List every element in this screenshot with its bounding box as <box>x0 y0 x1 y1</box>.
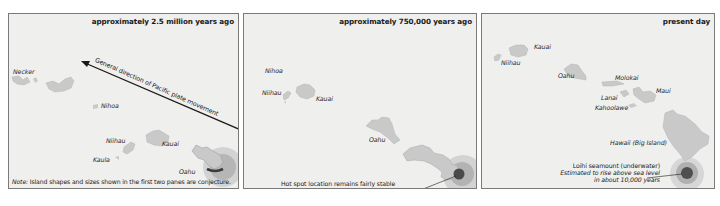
island-maui <box>633 87 656 103</box>
label-nihoa: Nihoa <box>265 67 283 74</box>
label-kauai: Kauai <box>534 43 551 50</box>
loihi-callout: Loihi seamount (underwater) Estimated to… <box>560 162 660 183</box>
island-niihau <box>283 91 291 100</box>
islet <box>284 101 286 104</box>
panel-2-5-million-years: approximately 2.5 million years ago Gene… <box>8 13 239 189</box>
label-lanai: Lanai <box>601 94 617 101</box>
island-unnamed <box>46 77 74 92</box>
island-necker <box>12 76 30 85</box>
island-map-svg <box>9 14 239 189</box>
panel-title: approximately 750,000 years ago <box>339 17 472 26</box>
callout-line-2: Estimated to rise above sea level <box>560 169 660 176</box>
panel-title: present day <box>663 17 710 26</box>
label-kaula: Kaula <box>93 156 110 163</box>
note-body: Island shapes and sizes shown in the fir… <box>28 178 231 185</box>
island-kaula <box>115 156 119 160</box>
label-nihoa: Nihoa <box>101 102 119 109</box>
hotspot-callout: Hot spot location remains fairly stable <box>281 180 395 187</box>
island-molokai <box>602 81 624 86</box>
island-kauai <box>296 84 315 99</box>
island-niihau <box>494 54 501 61</box>
label-necker: Necker <box>13 68 35 75</box>
label-kauai: Kauai <box>162 140 179 147</box>
island-kahoolawe <box>628 103 637 108</box>
label-kahoolawe: Kahoolawe <box>595 104 628 111</box>
callout-line-1: Loihi seamount (underwater) <box>560 162 660 169</box>
label-maui: Maui <box>656 87 671 94</box>
label-niihau: Niihau <box>106 137 125 144</box>
label-molokai: Molokai <box>615 74 638 81</box>
label-kauai: Kauai <box>316 95 333 102</box>
callout-line-3: in about 10,000 years <box>560 176 660 183</box>
label-oahu: Oahu <box>369 136 385 143</box>
label-oahu: Oahu <box>179 168 195 175</box>
island-hawaii <box>663 110 709 161</box>
island-nihoa <box>93 104 98 109</box>
note-label: Note: <box>12 178 28 185</box>
hotspot-core <box>454 169 465 180</box>
island-map-svg <box>244 14 477 189</box>
island-kauai <box>509 45 528 57</box>
plate-movement-arrow <box>85 63 239 130</box>
label-hawaii: Hawaii (Big Island) <box>610 139 667 146</box>
panel-750000-years: approximately 750,000 years ago Nihoa Ni… <box>243 13 477 189</box>
islet <box>33 77 38 83</box>
label-niihau: Niihau <box>501 59 520 66</box>
label-oahu: Oahu <box>558 72 574 79</box>
island-lanai <box>620 90 629 97</box>
panel-title: approximately 2.5 million years ago <box>92 17 234 26</box>
label-niihau: Niihau <box>262 89 281 96</box>
panel-present-day: present day Kauai Niihau Oahu Molokai Ma… <box>481 13 715 189</box>
note-text: Note: Island shapes and sizes shown in t… <box>12 178 231 185</box>
hotspot-core-loihi <box>681 167 693 179</box>
